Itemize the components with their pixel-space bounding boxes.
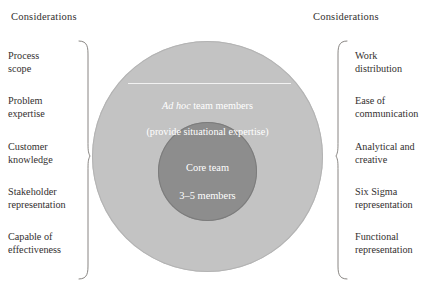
core-team-line1: Core team — [186, 162, 229, 173]
right-consideration-1: Work distribution — [355, 50, 402, 75]
left-consideration-2: Problem expertise — [8, 95, 45, 120]
core-team-label: Core team 3–5 members — [92, 147, 323, 203]
ad-hoc-team-label: Ad hoc team members (provide situational… — [92, 86, 323, 138]
considerations-heading-left: Considerations — [11, 11, 77, 22]
core-team-line2: 3–5 members — [179, 190, 235, 201]
left-consideration-5: Capable of effectiveness — [8, 231, 61, 256]
divider-line — [128, 83, 291, 84]
left-consideration-4: Stakeholder representation — [8, 186, 66, 211]
left-consideration-3: Customer knowledge — [8, 141, 53, 166]
right-consideration-3: Analytical and creative — [355, 141, 415, 166]
right-brace-icon — [336, 41, 347, 279]
right-consideration-2: Ease of communication — [355, 95, 418, 120]
ad-hoc-subline-text: (provide situational expertise) — [146, 126, 268, 137]
considerations-heading-right: Considerations — [313, 11, 379, 22]
ad-hoc-italic-text: Ad hoc — [162, 100, 191, 111]
right-consideration-5: Functional representation — [355, 231, 413, 256]
right-consideration-4: Six Sigma representation — [355, 186, 413, 211]
left-consideration-1: Process scope — [8, 50, 39, 75]
diagram-canvas: Considerations Considerations Ad hoc tea… — [0, 0, 432, 284]
ad-hoc-rest-text: team members — [191, 100, 253, 111]
left-brace-icon — [79, 41, 90, 279]
